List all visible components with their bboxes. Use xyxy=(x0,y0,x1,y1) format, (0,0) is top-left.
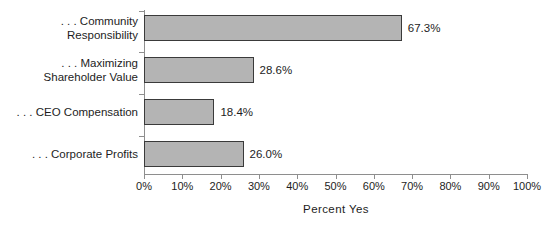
x-axis-tick-label: 90% xyxy=(478,180,500,192)
x-axis-tick xyxy=(221,174,222,179)
x-axis-tick-label: 0% xyxy=(136,180,152,192)
bar-value-label-community-responsibility: 67.3% xyxy=(408,15,441,41)
plot-area: 67.3%28.6%18.4%26.0% 0%10%20%30%40%50%60… xyxy=(144,0,534,180)
category-label-maximizing-shareholder-value: . . . Maximizing Shareholder Value xyxy=(4,57,144,84)
x-axis-tick xyxy=(527,174,528,179)
x-axis-tick-label: 50% xyxy=(324,180,346,192)
x-axis-tick xyxy=(259,174,260,179)
category-label-community-responsibility: . . . Community Responsibility xyxy=(4,15,144,42)
x-axis-tick xyxy=(374,174,375,179)
y-axis-tick xyxy=(139,94,145,95)
x-axis-tick xyxy=(450,174,451,179)
x-axis-tick xyxy=(297,174,298,179)
x-axis-tick-label: 70% xyxy=(401,180,423,192)
bar-chart: . . . Community Responsibility . . . Max… xyxy=(0,0,550,228)
x-axis-tick xyxy=(182,174,183,179)
x-axis-tick xyxy=(144,174,145,179)
bar-value-label-corporate-profits: 26.0% xyxy=(250,141,283,167)
x-axis-title: Percent Yes xyxy=(144,203,528,215)
x-axis-tick-label: 100% xyxy=(513,180,541,192)
x-axis-tick xyxy=(336,174,337,179)
x-axis-tick-label: 60% xyxy=(363,180,385,192)
y-axis-tick xyxy=(139,136,145,137)
y-axis-tick xyxy=(139,11,145,12)
category-label-column: . . . Community Responsibility . . . Max… xyxy=(0,0,144,180)
category-label-ceo-compensation: . . . CEO Compensation xyxy=(4,106,144,120)
bar-maximizing-shareholder-value xyxy=(144,57,254,83)
bar-community-responsibility xyxy=(144,15,402,41)
bar-value-label-maximizing-shareholder-value: 28.6% xyxy=(260,57,293,83)
x-axis-tick-label: 40% xyxy=(286,180,308,192)
x-axis-tick xyxy=(412,174,413,179)
bar-value-label-ceo-compensation: 18.4% xyxy=(220,99,253,125)
y-axis-tick xyxy=(139,52,145,53)
bar-ceo-compensation xyxy=(144,99,214,125)
x-axis-tick xyxy=(489,174,490,179)
x-axis-tick-label: 80% xyxy=(439,180,461,192)
bar-corporate-profits xyxy=(144,141,244,167)
x-axis-tick-label: 10% xyxy=(171,180,193,192)
category-label-corporate-profits: . . . Corporate Profits xyxy=(4,148,144,162)
x-axis-tick-label: 20% xyxy=(210,180,232,192)
x-axis-tick-label: 30% xyxy=(248,180,270,192)
